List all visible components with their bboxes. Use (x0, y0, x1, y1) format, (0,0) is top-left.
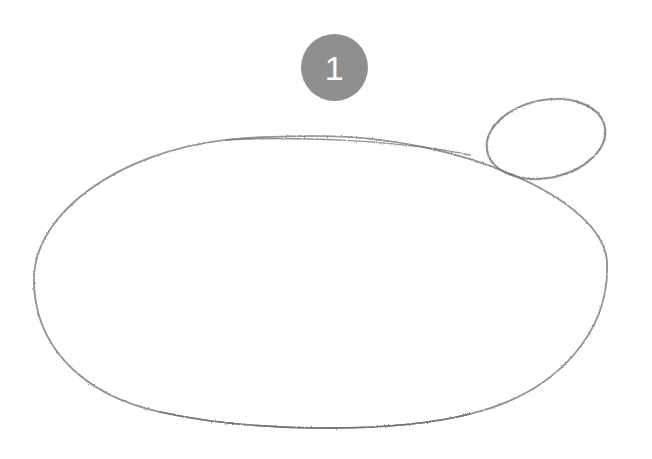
large-ellipse-shape (34, 136, 607, 428)
small-ellipse-shape (479, 88, 613, 189)
step-number-badge-label: 1 (325, 51, 344, 85)
sketch-canvas: 1 (0, 0, 652, 459)
step-number-badge[interactable]: 1 (301, 34, 368, 101)
